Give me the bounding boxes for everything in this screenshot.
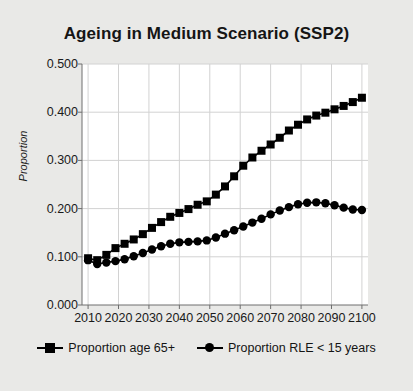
data-point-marker [166,240,174,248]
legend-circle-marker-icon [197,342,223,354]
data-point-marker [93,260,101,268]
data-point-marker [157,218,165,226]
data-point-marker [193,237,201,245]
data-point-marker [267,140,275,148]
legend-item[interactable]: Proportion RLE < 15 years [197,341,376,355]
data-point-marker [148,224,156,232]
data-point-marker [349,205,357,213]
data-point-marker [166,213,174,221]
data-point-marker [157,242,165,250]
data-point-marker [212,191,220,199]
data-point-marker [257,215,265,223]
data-point-marker [340,102,348,110]
data-point-marker [194,201,202,209]
data-point-marker [111,244,119,252]
data-point-marker [102,258,110,266]
data-point-marker [321,199,329,207]
data-point-marker [285,127,293,135]
legend-label: Proportion RLE < 15 years [228,341,376,355]
plot-area [0,0,413,391]
data-point-marker [230,226,238,234]
data-point-marker [230,172,238,180]
data-point-marker [212,233,220,241]
chart-figure: Ageing in Medium Scenario (SSP2) Proport… [0,0,413,391]
data-point-marker [349,98,357,106]
data-point-marker [121,240,129,248]
data-point-marker [312,198,320,206]
data-point-marker [358,94,366,102]
legend-label: Proportion age 65+ [68,341,175,355]
data-point-marker [221,182,229,190]
data-point-marker [331,105,339,113]
data-point-marker [303,115,311,123]
data-point-marker [175,238,183,246]
data-point-marker [130,235,138,243]
data-point-marker [294,200,302,208]
legend-item[interactable]: Proportion age 65+ [37,341,175,355]
data-point-marker [239,222,247,230]
data-point-marker [248,154,256,162]
data-point-marker [203,236,211,244]
data-point-marker [312,112,320,120]
data-point-marker [285,203,293,211]
data-point-marker [130,252,138,260]
data-point-marker [294,121,302,129]
legend-square-marker-icon [37,342,63,354]
data-point-marker [139,249,147,257]
data-point-marker [111,257,119,265]
data-point-marker [184,205,192,213]
data-point-marker [339,203,347,211]
data-point-marker [258,147,266,155]
data-point-marker [139,230,147,238]
data-point-marker [203,197,211,205]
data-point-marker [276,206,284,214]
data-point-marker [276,134,284,142]
data-point-marker [175,209,183,217]
data-point-marker [358,206,366,214]
data-point-marker [120,255,128,263]
data-point-marker [266,210,274,218]
data-point-marker [248,218,256,226]
data-point-marker [303,199,311,207]
data-point-marker [84,256,92,264]
data-point-marker [330,201,338,209]
data-point-marker [221,229,229,237]
data-point-marker [239,162,247,170]
data-point-marker [102,251,110,259]
data-point-marker [148,245,156,253]
chart-legend: Proportion age 65+Proportion RLE < 15 ye… [0,341,413,355]
data-point-marker [321,109,329,117]
data-point-marker [184,238,192,246]
